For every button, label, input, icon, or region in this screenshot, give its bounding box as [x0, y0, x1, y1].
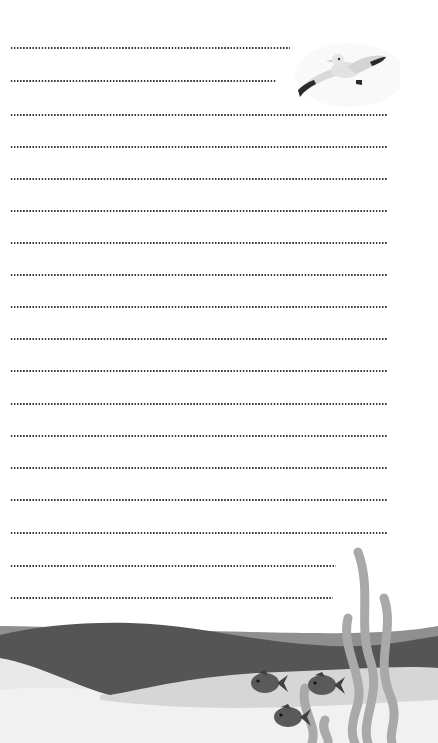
notepaper-page [0, 0, 438, 743]
writing-line [10, 370, 388, 372]
writing-line [10, 403, 388, 405]
writing-line [10, 274, 388, 276]
writing-line [10, 178, 388, 180]
writing-line [10, 80, 276, 82]
ocean-illustration [0, 530, 438, 743]
writing-line [10, 146, 388, 148]
writing-line [10, 242, 388, 244]
writing-line [10, 47, 290, 49]
writing-line [10, 467, 388, 469]
writing-line [10, 435, 388, 437]
writing-line [10, 210, 388, 212]
writing-line [10, 338, 388, 340]
writing-line [10, 306, 388, 308]
writing-line [10, 114, 388, 116]
writing-line [10, 499, 388, 501]
seagull-icon [290, 30, 400, 110]
